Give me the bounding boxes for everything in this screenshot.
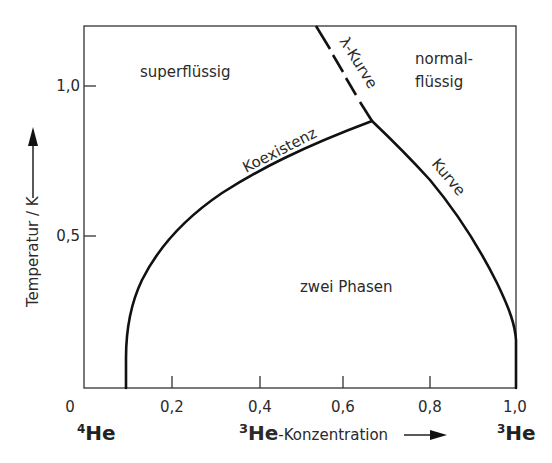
y-axis-arrow-icon [28,127,38,198]
x-axis-text: -Konzentration [278,426,388,444]
region-label-superfluid: superflüssig [140,63,231,81]
left-end-sup: 4 [77,422,85,436]
x-tick-label-0-6: 0,6 [331,398,355,416]
right-end-sup: 3 [497,422,505,436]
region-label-normal-line2: flüssig [415,73,463,91]
x-tick-label-0-8: 0,8 [418,398,442,416]
x-tick-label-0-4: 0,4 [248,398,272,416]
region-label-normal-line1: normal- [415,50,473,68]
x-axis-label: 3He-Konzentration [239,421,388,445]
x-tick-label-1-0: 1,0 [503,398,527,416]
x-axis-base: He [248,421,278,445]
y-axis-label: Temperatur / K [24,195,42,308]
curve-label-coexistence: Koexistenz [240,124,320,177]
region-label-two-phases: zwei Phasen [300,278,393,296]
left-end-base: He [85,421,115,445]
x-axis-arrow-icon [404,430,447,440]
left-end-label-4he: 4He [77,421,116,445]
phase-diagram: 1,0 0,5 0 0,2 0,4 0,6 0,8 1,0 4He 3He 3H… [0,0,552,463]
y-tick-label-0-5: 0,5 [56,227,80,245]
x-tick-label-0: 0 [65,398,75,416]
x-axis-sup: 3 [239,421,248,436]
curve-label-lambda: λ-Kurve [336,34,382,92]
curve-label-kurve: Kurve [428,155,469,199]
x-tick-label-0-2: 0,2 [160,398,184,416]
y-tick-label-1-0: 1,0 [56,77,80,95]
right-end-base: He [505,421,535,445]
right-end-label-3he: 3He [497,421,536,445]
